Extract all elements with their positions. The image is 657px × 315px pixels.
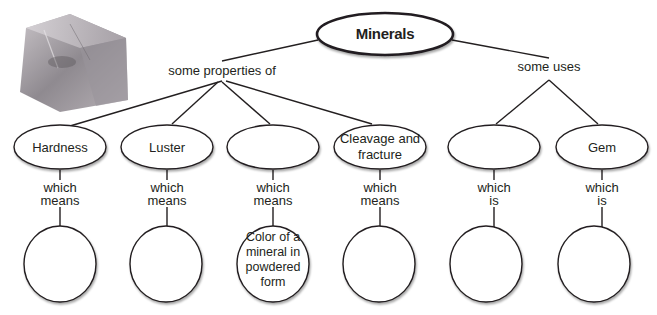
node-label-cleavage-line1: Cleavage and (340, 131, 420, 146)
answer-line: form (261, 275, 286, 289)
answer-circles (24, 226, 630, 302)
connector-means: means (147, 193, 187, 208)
connector-means: means (40, 193, 80, 208)
answer-line: Color of a (246, 230, 300, 244)
node-label-gem: Gem (588, 140, 616, 155)
connector-is: is (489, 193, 499, 208)
concept-map: Minerals some properties of some uses Ha… (0, 0, 657, 315)
connector-means: means (253, 193, 293, 208)
node-label-hardness: Hardness (32, 140, 88, 155)
answer-line: powdered (246, 260, 301, 274)
link-label-properties: some properties of (168, 63, 276, 78)
category-ellipses (14, 125, 648, 169)
connector-is: is (597, 193, 607, 208)
root-node-minerals: Minerals (317, 13, 453, 55)
root-label: Minerals (356, 25, 414, 42)
connector-phrases: which means which means which means whic… (40, 180, 618, 208)
mineral-crystal-image (20, 14, 128, 112)
connector-means: means (360, 193, 400, 208)
node-label-luster: Luster (149, 140, 186, 155)
answer-line: mineral in (246, 245, 300, 259)
node-label-cleavage-line2: fracture (358, 147, 402, 162)
link-label-uses: some uses (518, 59, 581, 74)
